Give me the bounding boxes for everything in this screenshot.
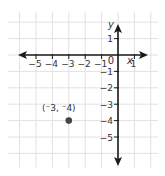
y-tick-label: −2	[100, 83, 113, 93]
data-point-label: (⁻3, ⁻4)	[42, 103, 76, 113]
y-axis-label: y	[107, 19, 115, 30]
y-tick-label: −1	[100, 67, 113, 77]
y-tick-label: −5	[100, 133, 113, 143]
origin-label: 0	[108, 55, 114, 66]
x-axis-label: x	[126, 55, 133, 66]
x-tick-label: −2	[78, 59, 91, 69]
y-tick-label: 1	[107, 34, 113, 44]
x-tick-label: −4	[45, 59, 59, 69]
y-tick-label: −3	[100, 100, 113, 110]
y-tick-label: −4	[100, 116, 114, 126]
tick-labels: −5−4−3−2−111−1−2−3−4−50xy	[28, 19, 136, 143]
data-point	[66, 117, 73, 124]
x-tick-label: −5	[28, 59, 41, 69]
axes	[18, 24, 148, 166]
x-tick-label: −3	[61, 59, 74, 69]
grid-lines	[8, 12, 158, 168]
coordinate-plane: −5−4−3−2−111−1−2−3−4−50xy (⁻3, ⁻4)	[0, 0, 165, 176]
